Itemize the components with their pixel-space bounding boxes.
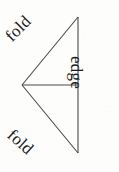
- label-edge: edge: [68, 56, 85, 89]
- folded-triangle-diagram: fold fold edge: [0, 0, 119, 172]
